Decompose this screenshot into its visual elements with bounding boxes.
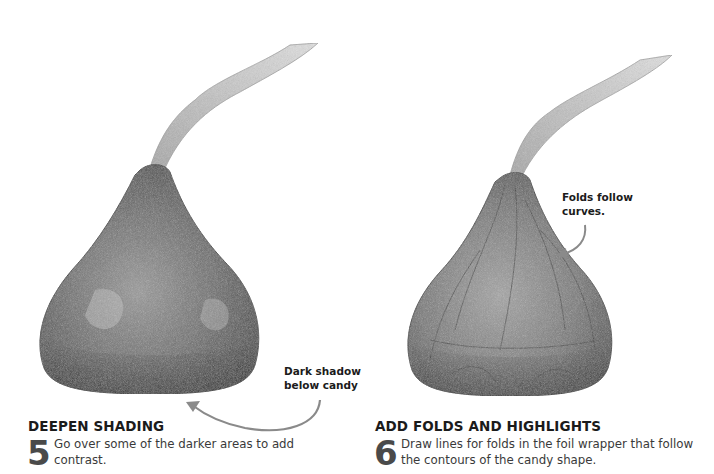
callout-line: Dark shadow: [284, 364, 361, 378]
callout-folds: Folds follow curves.: [562, 190, 633, 218]
callout-line: below candy: [284, 378, 361, 392]
step-5-number: 5: [27, 438, 51, 468]
step-text-line: Draw lines for folds in the foil wrapper…: [401, 436, 693, 452]
callout-dark-shadow: Dark shadow below candy: [284, 364, 361, 392]
candy-illustration-step-5: [40, 43, 318, 394]
step-text-line: Go over some of the darker areas to add: [54, 436, 294, 452]
step-5-text: Go over some of the darker areas to add …: [54, 436, 294, 468]
step-5-title: DEEPEN SHADING: [28, 418, 164, 434]
step-text-line: contrast.: [54, 452, 294, 468]
step-text-line: the contours of the candy shape.: [401, 452, 693, 468]
illustrations: [0, 0, 714, 474]
step-6-title: ADD FOLDS AND HIGHLIGHTS: [375, 418, 601, 434]
step-6-text: Draw lines for folds in the foil wrapper…: [401, 436, 693, 468]
callout-line: Folds follow: [562, 190, 633, 204]
ribbon-right: [510, 55, 672, 176]
callout-line: curves.: [562, 204, 633, 218]
candy-illustration-step-6: [408, 55, 672, 396]
step-6-number: 6: [374, 438, 398, 468]
arrow-dark-shadow: [192, 400, 320, 430]
arrow-folds: [563, 225, 585, 254]
ribbon-left: [150, 43, 318, 168]
